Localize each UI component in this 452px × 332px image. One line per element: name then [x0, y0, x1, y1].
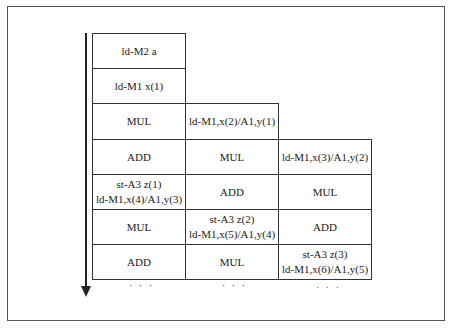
continuation-ellipsis-col3: · · · [316, 282, 341, 293]
cell-text: MUL [127, 220, 151, 235]
cell-text: ADD [127, 150, 151, 165]
cell-r3c2: ld-M1,x(3)/A1,y(2) [278, 139, 372, 175]
cell-text: MUL [313, 185, 337, 200]
cell-r5c1: st-A3 z(2)ld-M1,x(5)/A1,y(4) [185, 209, 279, 245]
cell-r0c0: ld-M2 a [92, 33, 186, 69]
cell-text-line2: ld-M1,x(4)/A1,y(3) [96, 192, 182, 207]
time-axis-line [85, 33, 87, 288]
cell-text: MUL [220, 255, 244, 270]
cell-text-line2: ld-M1,x(6)/A1,y(5) [282, 262, 368, 277]
cell-r6c0: ADD [92, 244, 186, 280]
cell-r5c2: ADD [278, 209, 372, 245]
cell-text: ld-M1,x(2)/A1,y(1) [189, 114, 275, 129]
cell-text: ld-M1,x(3)/A1,y(2) [282, 150, 368, 165]
cell-text-line1: st-A3 z(3) [303, 247, 348, 262]
cell-text-line1: st-A3 z(1) [117, 177, 162, 192]
cell-r1c0: ld-M1 x(1) [92, 68, 186, 104]
cell-text: ADD [313, 220, 337, 235]
time-axis-arrow-icon [81, 286, 91, 297]
cell-r4c0: st-A3 z(1)ld-M1,x(4)/A1,y(3) [92, 174, 186, 210]
continuation-ellipsis-col1: · · · [129, 280, 154, 291]
cell-text: ADD [220, 185, 244, 200]
cell-r4c1: ADD [185, 174, 279, 210]
cell-r6c2: st-A3 z(3)ld-M1,x(6)/A1,y(5) [278, 244, 372, 280]
cell-r2c0: MUL [92, 103, 186, 140]
cell-text: ld-M1 x(1) [115, 79, 164, 94]
cell-r5c0: MUL [92, 209, 186, 245]
cell-text: ADD [127, 255, 151, 270]
cell-text-line2: ld-M1,x(5)/A1,y(4) [189, 227, 275, 242]
cell-text-line1: st-A3 z(2) [210, 212, 255, 227]
continuation-ellipsis-col2: · · · [222, 280, 247, 291]
cell-r3c1: MUL [185, 139, 279, 175]
cell-r3c0: ADD [92, 139, 186, 175]
cell-r4c2: MUL [278, 174, 372, 210]
cell-text: MUL [127, 114, 151, 129]
cell-text: MUL [220, 150, 244, 165]
cell-r2c1: ld-M1,x(2)/A1,y(1) [185, 103, 279, 140]
cell-text: ld-M2 a [121, 44, 156, 59]
cell-r6c1: MUL [185, 244, 279, 280]
